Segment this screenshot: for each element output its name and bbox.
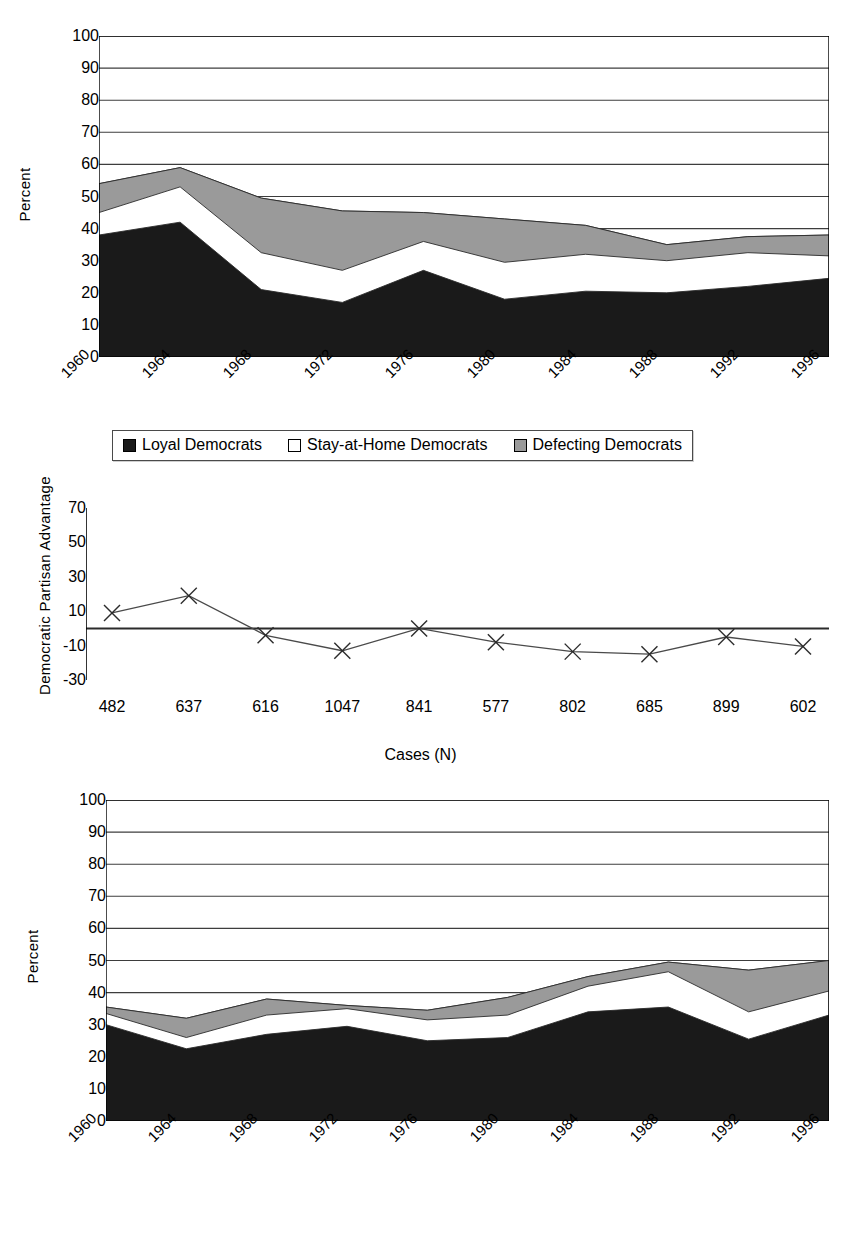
x-tick-label: 1996 <box>787 1109 823 1145</box>
x-tick-label: 1980 <box>463 345 499 381</box>
x-tick-label-cases: 616 <box>252 698 279 716</box>
x-tick-label: 1984 <box>546 1109 582 1145</box>
x-tick-label: 1972 <box>300 345 336 381</box>
x-tick-label-cases: 899 <box>713 698 740 716</box>
x-tick-label: 1960 <box>57 345 93 381</box>
legend-item[interactable]: Stay-at-Home Democrats <box>288 436 488 454</box>
x-tick-label-cases: 577 <box>483 698 510 716</box>
x-tick-label-cases: 482 <box>99 698 126 716</box>
x-axis-caption-cases: Cases (N) <box>0 746 841 764</box>
x-tick-label-cases: 602 <box>790 698 817 716</box>
x-tick-label: 1992 <box>706 345 742 381</box>
legend-label: Stay-at-Home Democrats <box>307 436 488 454</box>
x-tick-label: 1960 <box>64 1109 100 1145</box>
figure-page: Percent 1009080706050403020100 196019641… <box>0 0 841 1242</box>
legend-swatch-dark-icon <box>123 439 136 452</box>
chart-republicans: Percent 1009080706050403020100 196019641… <box>0 790 841 1242</box>
x-axis-ticks-democrats: 1960196419681972197619801984198819921996 <box>0 0 841 470</box>
x-tick-label-cases: 841 <box>406 698 433 716</box>
x-tick-label: 1988 <box>625 345 661 381</box>
legend-swatch-gray-icon <box>514 439 527 452</box>
x-tick-label-cases: 1047 <box>325 698 361 716</box>
chart-partisan-advantage: Democratic Partisan Advantage 70503010-1… <box>0 480 841 780</box>
x-tick-label: 1976 <box>381 345 417 381</box>
x-tick-label: 1992 <box>707 1109 743 1145</box>
x-tick-label-cases: 685 <box>636 698 663 716</box>
legend-item[interactable]: Defecting Democrats <box>514 436 682 454</box>
x-tick-label: 1988 <box>626 1109 662 1145</box>
x-tick-label: 1968 <box>225 1109 261 1145</box>
x-tick-label: 1996 <box>787 345 823 381</box>
x-axis-ticks-republicans: 1960196419681972197619801984198819921996 <box>0 790 841 1242</box>
x-tick-label: 1972 <box>305 1109 341 1145</box>
legend-item[interactable]: Loyal Democrats <box>123 436 262 454</box>
x-tick-label: 1964 <box>138 345 174 381</box>
legend-democrats: Loyal DemocratsStay-at-Home DemocratsDef… <box>112 430 693 461</box>
legend-swatch-white-icon <box>288 439 301 452</box>
x-tick-label: 1976 <box>385 1109 421 1145</box>
x-tick-label: 1980 <box>466 1109 502 1145</box>
legend-label: Defecting Democrats <box>533 436 682 454</box>
x-tick-label: 1984 <box>544 345 580 381</box>
x-tick-label-cases: 637 <box>175 698 202 716</box>
x-tick-label-cases: 802 <box>559 698 586 716</box>
x-axis-ticks-cases: 4826376161047841577802685899602 <box>0 480 841 780</box>
chart-democrats: Percent 1009080706050403020100 196019641… <box>0 0 841 470</box>
x-tick-label: 1968 <box>219 345 255 381</box>
x-tick-label: 1964 <box>144 1109 180 1145</box>
legend-label: Loyal Democrats <box>142 436 262 454</box>
